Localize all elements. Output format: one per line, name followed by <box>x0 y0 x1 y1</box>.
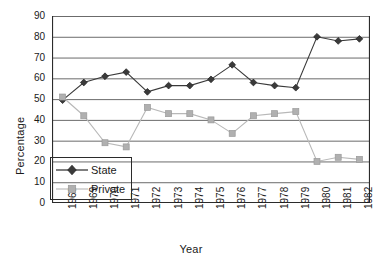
y-axis-title: Percentage <box>14 0 28 175</box>
data-point-private-1975 <box>208 117 214 123</box>
x-tick-label: 1978 <box>280 187 290 209</box>
y-tick-label: 40 <box>19 115 45 125</box>
data-point-private-1982 <box>356 156 362 162</box>
y-tick-label: 30 <box>19 136 45 146</box>
chart-legend: State Private <box>50 157 132 200</box>
y-tick-label: 60 <box>19 73 45 83</box>
x-tick-label: 1974 <box>195 187 205 209</box>
y-tick-label: 0 <box>19 198 45 208</box>
x-tick-label: 1979 <box>301 187 311 209</box>
series-line-state <box>63 37 360 100</box>
series-line-private <box>63 97 360 161</box>
y-tick-label: 20 <box>19 156 45 166</box>
data-point-private-1968 <box>60 94 66 100</box>
data-point-private-1980 <box>314 158 320 164</box>
data-point-private-1979 <box>293 109 299 115</box>
data-point-state-1981 <box>335 38 342 45</box>
line-chart: Percentage 0102030405060708090 196819691… <box>0 0 382 259</box>
legend-marker-diamond-icon <box>55 161 89 179</box>
legend-marker-square-icon <box>55 180 89 198</box>
x-tick-label: 1975 <box>216 187 226 209</box>
data-point-private-1973 <box>166 111 172 117</box>
legend-item-state: State <box>51 161 133 179</box>
data-point-state-1978 <box>271 82 278 89</box>
series-layer <box>59 33 363 164</box>
data-point-private-1978 <box>272 111 278 117</box>
legend-label-state: State <box>91 164 117 176</box>
y-tick-label: 80 <box>19 32 45 42</box>
x-tick-label: 1981 <box>343 187 353 209</box>
x-tick-label: 1972 <box>152 187 162 209</box>
x-tick-label: 1973 <box>174 187 184 209</box>
y-tick-label: 90 <box>19 11 45 21</box>
legend-item-private: Private <box>51 180 133 198</box>
y-tick-label: 70 <box>19 53 45 63</box>
x-tick-label: 1977 <box>258 187 268 209</box>
data-point-private-1981 <box>335 154 341 160</box>
data-point-state-1975 <box>208 76 215 83</box>
data-point-state-1974 <box>186 82 193 89</box>
data-point-state-1973 <box>165 82 172 89</box>
legend-label-private: Private <box>91 183 125 195</box>
data-point-private-1971 <box>123 144 129 150</box>
x-tick-label: 1982 <box>364 187 374 209</box>
data-point-private-1969 <box>81 113 87 119</box>
x-tick-label: 1976 <box>237 187 247 209</box>
data-point-private-1976 <box>229 130 235 136</box>
data-point-private-1974 <box>187 111 193 117</box>
x-axis-title: Year <box>0 243 382 255</box>
y-tick-label: 50 <box>19 94 45 104</box>
data-point-private-1970 <box>102 140 108 146</box>
data-point-private-1972 <box>144 104 150 110</box>
data-point-state-1980 <box>314 33 321 40</box>
x-tick-label: 1980 <box>322 187 332 209</box>
data-point-state-1982 <box>356 35 363 42</box>
data-point-state-1979 <box>292 84 299 91</box>
y-tick-label: 10 <box>19 177 45 187</box>
data-point-private-1977 <box>250 113 256 119</box>
